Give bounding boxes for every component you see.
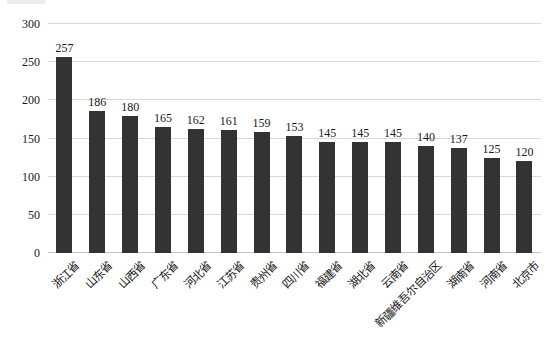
bar bbox=[188, 129, 204, 253]
bar-value-label: 161 bbox=[220, 115, 238, 127]
x-axis-category-label: 北京市 bbox=[510, 259, 542, 291]
bar-chart: 257 浙江省 186 山东省 180 山西省 165 广东省 162 河北省 … bbox=[0, 0, 550, 344]
bar-value-label: 120 bbox=[515, 146, 533, 158]
x-axis-category-label: 江苏省 bbox=[214, 259, 246, 291]
bar-group: 180 山西省 bbox=[114, 24, 147, 253]
bar bbox=[221, 130, 237, 253]
bar bbox=[418, 146, 434, 253]
y-axis-tick-label: 250 bbox=[22, 56, 40, 68]
bar bbox=[451, 148, 467, 253]
x-axis-category-label: 湖北省 bbox=[346, 259, 378, 291]
bar-group: 140 新疆维吾尔自治区 bbox=[409, 24, 442, 253]
x-axis-category-label: 贵州省 bbox=[247, 259, 279, 291]
bar-group: 186 山东省 bbox=[81, 24, 114, 253]
bar-value-label: 125 bbox=[483, 143, 501, 155]
bar bbox=[516, 161, 532, 253]
x-axis-category-label: 湖南省 bbox=[444, 259, 476, 291]
bar bbox=[89, 111, 105, 253]
bar-value-label: 137 bbox=[450, 133, 468, 145]
bar bbox=[122, 116, 138, 253]
bar-value-label: 140 bbox=[417, 131, 435, 143]
bar-value-label: 180 bbox=[121, 101, 139, 113]
x-axis-category-label: 广东省 bbox=[149, 259, 181, 291]
bar-group: 145 湖北省 bbox=[344, 24, 377, 253]
y-axis-tick-label: 0 bbox=[34, 247, 40, 259]
x-axis-category-label: 河南省 bbox=[477, 259, 509, 291]
bar-value-label: 186 bbox=[88, 96, 106, 108]
bar bbox=[286, 136, 302, 253]
x-axis-category-label: 山西省 bbox=[116, 259, 148, 291]
x-axis-category-label: 云南省 bbox=[379, 259, 411, 291]
x-axis-category-label: 福建省 bbox=[313, 259, 345, 291]
bar-group: 145 福建省 bbox=[311, 24, 344, 253]
bar-value-label: 165 bbox=[154, 112, 172, 124]
bar-group: 161 江苏省 bbox=[212, 24, 245, 253]
cropped-text-artifact bbox=[7, 0, 45, 4]
bar bbox=[155, 127, 171, 253]
bar-group: 165 广东省 bbox=[147, 24, 180, 253]
bar-value-label: 153 bbox=[285, 121, 303, 133]
bar-value-label: 145 bbox=[384, 127, 402, 139]
bar bbox=[352, 142, 368, 253]
bar-value-label: 162 bbox=[187, 114, 205, 126]
y-axis-tick-label: 50 bbox=[28, 209, 40, 221]
x-axis-category-label: 浙江省 bbox=[50, 259, 82, 291]
bar bbox=[56, 57, 72, 253]
bar bbox=[385, 142, 401, 253]
x-axis-category-label: 山东省 bbox=[83, 259, 115, 291]
bar-value-label: 159 bbox=[253, 117, 271, 129]
bar-group: 145 云南省 bbox=[377, 24, 410, 253]
bars-container: 257 浙江省 186 山东省 180 山西省 165 广东省 162 河北省 … bbox=[48, 24, 541, 253]
bar-group: 125 河南省 bbox=[475, 24, 508, 253]
x-axis-category-label: 河北省 bbox=[182, 259, 214, 291]
y-axis-tick-label: 150 bbox=[22, 133, 40, 145]
bar bbox=[484, 158, 500, 253]
bar-group: 162 河北省 bbox=[179, 24, 212, 253]
bar bbox=[319, 142, 335, 253]
bar bbox=[254, 132, 270, 253]
y-axis-tick-label: 100 bbox=[22, 171, 40, 183]
y-axis-tick-label: 200 bbox=[22, 94, 40, 106]
bar-group: 137 湖南省 bbox=[442, 24, 475, 253]
bar-group: 153 四川省 bbox=[278, 24, 311, 253]
bar-value-label: 257 bbox=[55, 42, 73, 54]
plot-area: 257 浙江省 186 山东省 180 山西省 165 广东省 162 河北省 … bbox=[48, 24, 541, 253]
x-axis-category-label: 四川省 bbox=[280, 259, 312, 291]
bar-value-label: 145 bbox=[318, 127, 336, 139]
bar-group: 257 浙江省 bbox=[48, 24, 81, 253]
y-axis-tick-label: 300 bbox=[22, 18, 40, 30]
bar-group: 120 北京市 bbox=[508, 24, 541, 253]
bar-value-label: 145 bbox=[351, 127, 369, 139]
bar-group: 159 贵州省 bbox=[245, 24, 278, 253]
